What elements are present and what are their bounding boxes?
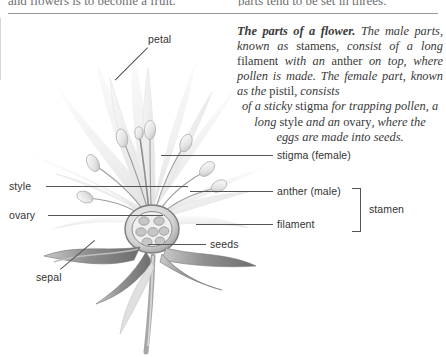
caption-title: The parts of a flower. <box>237 24 355 38</box>
leader-line-ovary <box>48 215 163 216</box>
leader-line-stigma <box>161 155 273 156</box>
label-stamen: stamen <box>369 203 404 215</box>
label-sepal: sepal <box>36 271 62 283</box>
leader-line-anther <box>190 191 273 192</box>
caption-line6-e: , where the <box>371 115 425 129</box>
caption-term-pistil: pistil <box>269 84 294 98</box>
caption-line3-a: with an <box>285 54 332 68</box>
label-stigma: stigma (female) <box>277 149 351 161</box>
label-anther: anther (male) <box>277 185 341 197</box>
label-petal: petal <box>148 33 171 45</box>
caption-line5-a: of a sticky <box>242 99 295 113</box>
caption-line5-c: for trapping pollen, a <box>328 99 438 113</box>
label-filament: filament <box>277 218 315 230</box>
label-style: style <box>9 180 31 192</box>
caption-line6-a: long <box>254 115 279 129</box>
caption-line6-c: and an <box>303 115 343 129</box>
cut-off-text-right: parts tend to be set in threes. <box>238 0 443 6</box>
caption-term-style: style <box>279 115 302 129</box>
caption-term-stamens: stamens <box>296 39 336 53</box>
caption-term-anther: anther <box>331 54 362 68</box>
label-seeds: seeds <box>210 238 239 250</box>
leader-line-filament <box>196 224 273 225</box>
document-page: and flowers is to become a fruit. parts … <box>0 0 446 357</box>
caption-line2-a: known as <box>237 39 296 53</box>
caption-term-filament: filament <box>237 54 278 68</box>
figure-caption: The parts of a flower. The male parts, k… <box>237 24 443 145</box>
leader-line-style <box>46 186 188 187</box>
caption-term-stigma: stigma <box>295 99 328 113</box>
horizontal-rule <box>8 13 438 14</box>
caption-term-ovary: ovary <box>343 115 371 129</box>
label-ovary: ovary <box>9 209 35 221</box>
caption-line4-c: , consists <box>294 84 339 98</box>
stamen-bracket <box>352 188 361 232</box>
leader-line-seeds <box>148 244 206 245</box>
caption-line1-rest: The male parts, <box>355 24 443 38</box>
cut-off-text-left: and flowers is to become a fruit. <box>8 0 223 6</box>
caption-line7: eggs are made into seeds. <box>237 130 443 145</box>
caption-line2-c: , consist of a long <box>336 39 443 53</box>
